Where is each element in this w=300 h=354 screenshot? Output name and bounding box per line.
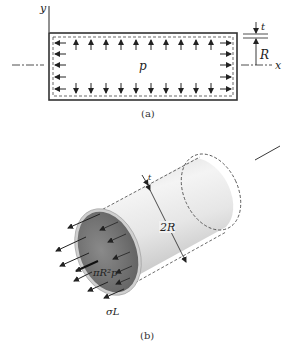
pressure-vessel-diagram: y x xyxy=(0,0,300,354)
pressure-arrows-bottom xyxy=(76,83,211,93)
y-axis-label: y xyxy=(39,2,47,15)
figure-a: y x xyxy=(12,2,282,119)
radius-label: R xyxy=(259,48,269,62)
x-axis-label: x xyxy=(275,59,282,72)
axis-line xyxy=(255,146,280,160)
pressure-label: p xyxy=(139,59,147,73)
diameter-label: 2R xyxy=(159,221,175,234)
caption-a: (a) xyxy=(141,108,155,119)
caption-b: (b) xyxy=(140,330,154,341)
force-label: πR²p xyxy=(92,267,118,278)
pressure-arrows-left xyxy=(55,43,66,89)
figure-b: πR²p t 2R σL (b) xyxy=(56,144,280,341)
thickness-label-b: t xyxy=(148,173,152,182)
pressure-arrows-top xyxy=(76,40,211,50)
longitudinal-stress-label: σL xyxy=(106,306,120,317)
pressure-arrows-right xyxy=(220,43,231,89)
thickness-label-a: t xyxy=(261,21,266,32)
